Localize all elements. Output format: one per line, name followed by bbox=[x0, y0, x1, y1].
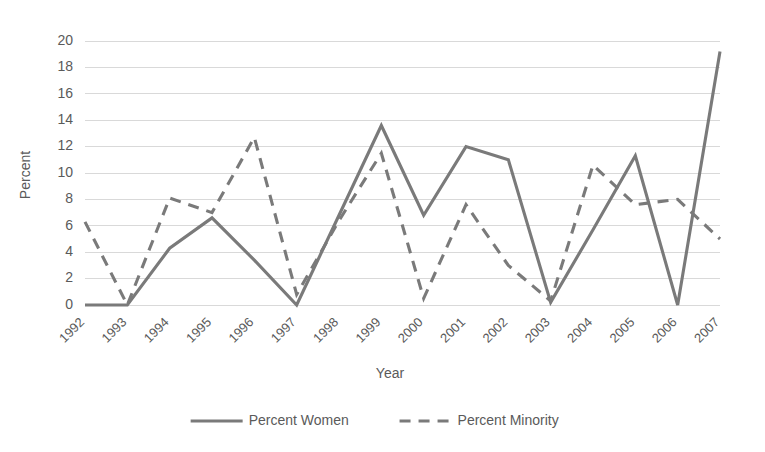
y-tick-label: 2 bbox=[65, 269, 73, 285]
y-tick-label: 6 bbox=[65, 217, 73, 233]
legend-label-2: Percent Minority bbox=[458, 412, 559, 428]
y-tick-label: 16 bbox=[57, 85, 73, 101]
chart-canvas: 02468101214161820 1992199319941995199619… bbox=[0, 0, 765, 452]
y-tick-label: 0 bbox=[65, 296, 73, 312]
legend-label-1: Percent Women bbox=[249, 412, 349, 428]
y-tick-label: 14 bbox=[57, 111, 73, 127]
y-tick-label: 12 bbox=[57, 137, 73, 153]
x-axis-title: Year bbox=[376, 365, 405, 381]
y-tick-label: 8 bbox=[65, 190, 73, 206]
y-tick-label: 20 bbox=[57, 32, 73, 48]
y-tick-label: 18 bbox=[57, 58, 73, 74]
y-tick-label: 4 bbox=[65, 243, 73, 259]
line-chart: 02468101214161820 1992199319941995199619… bbox=[0, 0, 765, 452]
y-tick-label: 10 bbox=[57, 164, 73, 180]
y-axis-title: Percent bbox=[17, 151, 33, 199]
